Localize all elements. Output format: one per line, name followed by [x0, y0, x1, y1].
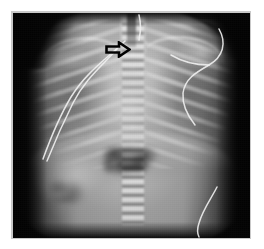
figure-caption — [0, 0, 1, 1]
film-edge-top — [13, 13, 250, 25]
radiograph-image — [13, 13, 250, 238]
film-edge-bottom — [13, 222, 250, 238]
figure-alt-text: Frontal radiograph of an infant chest an… — [0, 0, 1, 1]
annotation-arrow — [105, 41, 131, 58]
radiograph-figure: Frontal radiograph of an infant chest an… — [0, 0, 264, 249]
film-edge-left — [13, 13, 47, 238]
film-edge-right — [216, 13, 250, 238]
arrow-head-icon — [107, 43, 130, 57]
